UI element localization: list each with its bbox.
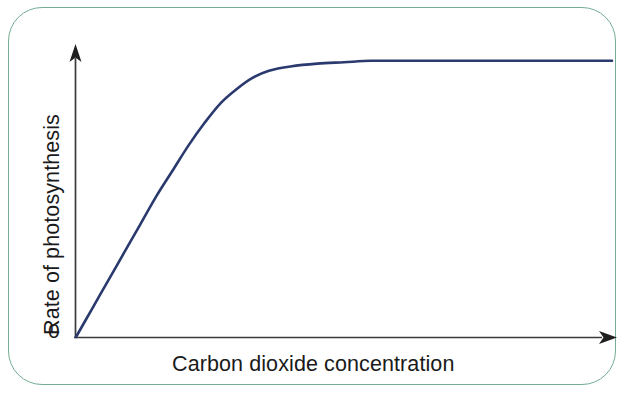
- plot-area: [0, 0, 624, 393]
- photosynthesis-rate-curve: [76, 61, 612, 337]
- x-axis-label: Carbon dioxide concentration: [172, 352, 454, 377]
- y-axis-label: Rate of photosynthesis: [40, 114, 65, 335]
- origin-zero-label: 0: [48, 319, 60, 343]
- photosynthesis-co2-figure: Rate of photosynthesis Carbon dioxide co…: [0, 0, 624, 393]
